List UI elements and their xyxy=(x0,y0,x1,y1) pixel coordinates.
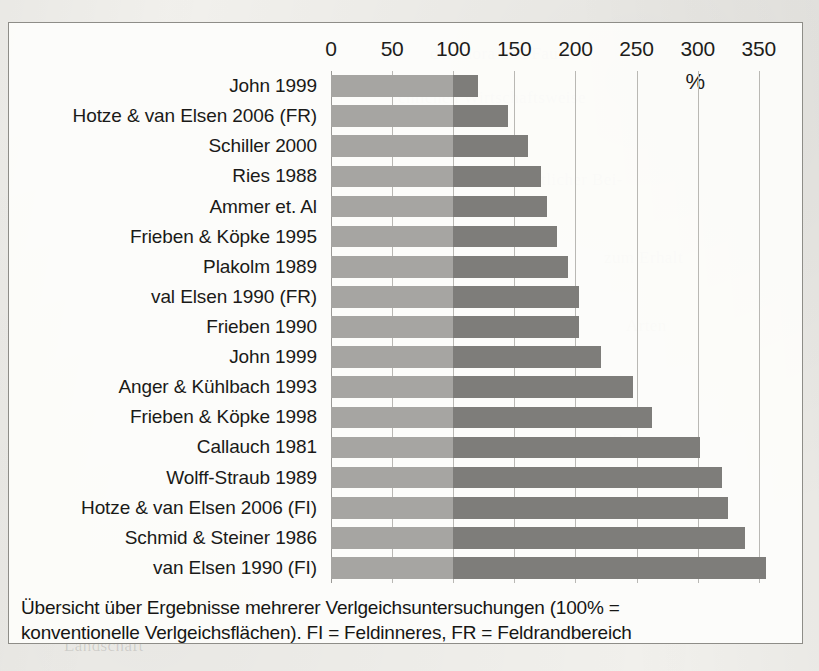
bar-segment-above-reference xyxy=(453,135,528,157)
bar xyxy=(331,256,568,278)
bar-segment-below-reference xyxy=(331,376,453,398)
x-tick-label: 100 xyxy=(436,37,470,61)
x-tick-label: 0 xyxy=(325,37,336,61)
y-axis-category-labels: John 1999Hotze & van Elsen 2006 (FR)Schi… xyxy=(9,71,325,583)
bar xyxy=(331,467,722,489)
y-axis-label: Hotze & van Elsen 2006 (FR) xyxy=(73,105,317,127)
bar-segment-below-reference xyxy=(331,226,453,248)
bar-segment-below-reference xyxy=(331,166,453,188)
bar xyxy=(331,557,766,579)
y-axis-label: val Elsen 1990 (FR) xyxy=(151,286,317,308)
x-tick-label: 250 xyxy=(619,37,653,61)
y-axis-label: Frieben & Köpke 1995 xyxy=(130,226,317,248)
y-axis-label: Plakolm 1989 xyxy=(203,256,317,278)
y-axis-label: Wolff-Straub 1989 xyxy=(166,467,317,489)
bar-segment-below-reference xyxy=(331,196,453,218)
bar xyxy=(331,497,728,519)
bar-segment-above-reference xyxy=(453,437,700,459)
bar-segment-above-reference xyxy=(453,376,633,398)
bar-segment-below-reference xyxy=(331,256,453,278)
bar-segment-above-reference xyxy=(453,467,722,489)
bar-segment-above-reference xyxy=(453,407,652,429)
bar-segment-below-reference xyxy=(331,316,453,338)
bar xyxy=(331,527,745,549)
bar-segment-below-reference xyxy=(331,105,453,127)
bar-segment-below-reference xyxy=(331,557,453,579)
bar xyxy=(331,437,700,459)
x-tick-label: 50 xyxy=(381,37,404,61)
y-axis-label: John 1999 xyxy=(229,346,317,368)
x-tick-label: 350 xyxy=(742,37,776,61)
bar xyxy=(331,166,541,188)
bar-segment-below-reference xyxy=(331,75,453,97)
bar xyxy=(331,75,478,97)
bar xyxy=(331,407,652,429)
bar-segment-above-reference xyxy=(453,346,601,368)
y-axis-label: Schmid & Steiner 1986 xyxy=(125,527,317,549)
bar xyxy=(331,226,557,248)
caption-line-2: konventionelle Verlgeichsflächen). FI = … xyxy=(21,622,632,643)
bar-segment-above-reference xyxy=(453,527,745,549)
bar xyxy=(331,346,601,368)
y-axis-label: Ammer et. Al xyxy=(209,196,317,218)
x-tick-label: 300 xyxy=(680,37,714,61)
bar-segment-below-reference xyxy=(331,346,453,368)
figure-panel: 050100150200250300350 % John 1999Hotze &… xyxy=(8,22,803,644)
bar-segment-above-reference xyxy=(453,497,728,519)
bar-segment-below-reference xyxy=(331,437,453,459)
bar-segment-below-reference xyxy=(331,407,453,429)
y-axis-label: Frieben 1990 xyxy=(206,316,317,338)
bar-segment-above-reference xyxy=(453,166,541,188)
bar-series xyxy=(331,71,771,583)
y-axis-label: Anger & Kühlbach 1993 xyxy=(118,376,317,398)
y-axis-label: Schiller 2000 xyxy=(208,135,317,157)
bar-segment-below-reference xyxy=(331,467,453,489)
bar-segment-above-reference xyxy=(453,196,547,218)
y-axis-label: Callauch 1981 xyxy=(197,436,317,458)
y-axis-label: Frieben & Köpke 1998 xyxy=(130,406,317,428)
caption-line-1: Übersicht über Ergebnisse mehrerer Verlg… xyxy=(21,597,620,618)
bar xyxy=(331,196,547,218)
x-axis-tick-labels: 050100150200250300350 xyxy=(9,37,802,67)
bar-segment-above-reference xyxy=(453,557,766,579)
bar-segment-above-reference xyxy=(453,226,557,248)
bar xyxy=(331,135,528,157)
bar-segment-above-reference xyxy=(453,256,568,278)
bar-segment-above-reference xyxy=(453,316,579,338)
bar-segment-above-reference xyxy=(453,286,579,308)
bar-segment-below-reference xyxy=(331,497,453,519)
x-tick-label: 200 xyxy=(558,37,592,61)
bar xyxy=(331,105,508,127)
bar-segment-below-reference xyxy=(331,135,453,157)
bar xyxy=(331,286,579,308)
bar-segment-below-reference xyxy=(331,527,453,549)
y-axis-label: Ries 1988 xyxy=(232,165,317,187)
x-tick-label: 150 xyxy=(497,37,531,61)
y-axis-label: John 1999 xyxy=(229,75,317,97)
bar xyxy=(331,376,633,398)
y-axis-label: Hotze & van Elsen 2006 (FI) xyxy=(81,497,317,519)
figure-caption: Übersicht über Ergebnisse mehrerer Verlg… xyxy=(21,595,792,645)
bar-segment-above-reference xyxy=(453,75,477,97)
bar-segment-below-reference xyxy=(331,286,453,308)
bar xyxy=(331,316,579,338)
bar-segment-above-reference xyxy=(453,105,508,127)
chart-area: 050100150200250300350 % John 1999Hotze &… xyxy=(9,23,802,593)
y-axis-label: van Elsen 1990 (FI) xyxy=(153,557,317,579)
